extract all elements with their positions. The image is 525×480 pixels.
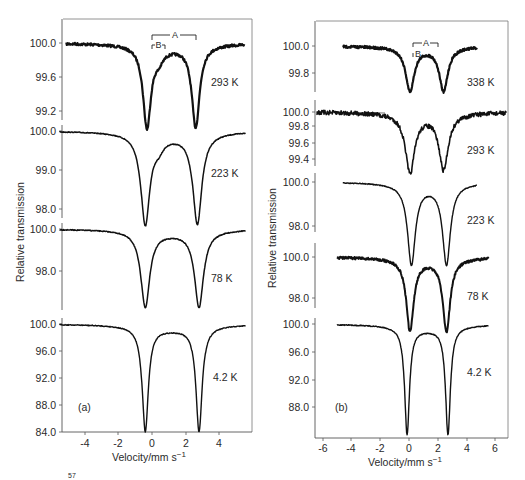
ytick-a-293-2: 99.2 — [36, 105, 57, 117]
ytick-a-4-0: 100.0 — [30, 318, 56, 330]
ytick-b-4-1: 96.0 — [289, 346, 310, 358]
ytick-b-338-1: 99.8 — [289, 67, 310, 79]
spectrum-b-223K — [343, 183, 477, 266]
ytick-b-338-0: 100.0 — [283, 40, 309, 52]
xtick-a-0: -4 — [80, 437, 89, 449]
panel-a-y-ticks: 100.0 99.6 99.2 100.0 99.0 98.0 100.0 98… — [30, 37, 62, 438]
temp-label-b-78: 78 K — [467, 290, 489, 302]
footnote-fragment: 57 — [68, 472, 76, 479]
panel-b-y-axis-title: Relative transmission — [266, 188, 278, 288]
ytick-b-293-3: 99.4 — [289, 153, 310, 165]
temp-label-a-293: 293 K — [211, 76, 238, 88]
ytick-a-78-0: 100.0 — [30, 223, 56, 235]
ytick-b-78-1: 98.0 — [289, 292, 310, 304]
ytick-b-293-2: 99.6 — [289, 137, 310, 149]
temp-label-b-223: 223 K — [467, 214, 494, 226]
spectrum-b-293K — [317, 110, 507, 173]
ytick-a-223-1: 99.0 — [36, 164, 57, 176]
temp-label-a-4: 4.2 K — [213, 371, 238, 383]
temp-label-b-338: 338 K — [467, 76, 494, 88]
xtick-b-5: 4 — [464, 442, 470, 454]
panel-a-brackets: A B — [152, 30, 196, 50]
xtick-a-1: -2 — [113, 437, 122, 449]
ytick-b-293-1: 99.8 — [289, 120, 310, 132]
ytick-a-223-0: 100.0 — [30, 125, 56, 137]
ytick-b-4-3: 88.0 — [289, 401, 310, 413]
ytick-a-4-3: 88.0 — [36, 399, 57, 411]
temp-label-b-4: 4.2 K — [467, 366, 492, 378]
xtick-a-3: 2 — [183, 437, 189, 449]
temp-label-b-293: 293 K — [467, 144, 494, 156]
panel-b-y-ticks: 100.0 99.8 100.0 99.8 99.6 99.4 100.0 98… — [283, 40, 315, 413]
xtick-b-2: -2 — [375, 442, 384, 454]
ytick-b-293-0: 100.0 — [283, 106, 309, 118]
xtick-b-3: 0 — [406, 442, 412, 454]
ytick-b-223-0: 100.0 — [283, 176, 309, 188]
ytick-b-4-0: 100.0 — [283, 318, 309, 330]
mossbauer-figure: 100.0 99.6 99.2 100.0 99.0 98.0 100.0 98… — [0, 0, 525, 480]
xtick-b-0: -6 — [318, 442, 327, 454]
spectrum-b-78K — [337, 257, 489, 333]
ytick-a-78-1: 98.0 — [36, 265, 57, 277]
xtick-a-4: 4 — [216, 437, 222, 449]
panel-a-x-axis-title: Velocity/mm s−1 — [112, 450, 186, 463]
panel-label-a: (a) — [78, 401, 91, 413]
panel-label-b: (b) — [335, 401, 348, 413]
bracket-label-a-A: A — [172, 30, 178, 40]
bracket-label-a-B: B — [155, 40, 161, 50]
xtick-b-4: 2 — [435, 442, 441, 454]
temp-label-a-78: 78 K — [211, 272, 233, 284]
xtick-a-2: 0 — [149, 437, 155, 449]
panel-b-x-ticks: -6 -4 -2 0 2 4 6 — [318, 438, 498, 454]
ytick-a-293-1: 99.6 — [36, 71, 57, 83]
spectrum-b-4K — [337, 325, 489, 435]
ytick-a-4-1: 96.0 — [36, 345, 57, 357]
panel-b: 100.0 99.8 100.0 99.8 99.6 99.4 100.0 98… — [266, 21, 508, 468]
spectrum-a-78K — [60, 230, 246, 308]
ytick-a-223-2: 98.0 — [36, 203, 57, 215]
ytick-b-223-1: 98.0 — [289, 220, 310, 232]
ytick-a-293-0: 100.0 — [30, 37, 56, 49]
ytick-a-4-4: 84.0 — [36, 426, 57, 438]
temp-label-a-223: 223 K — [211, 167, 238, 179]
ytick-b-78-0: 100.0 — [283, 251, 309, 263]
bracket-label-b-A: A — [423, 38, 429, 48]
spectrum-b-338K — [343, 46, 477, 93]
panel-a-y-axis-title: Relative transmission — [14, 182, 26, 282]
panel-a-x-ticks: -4 -2 0 2 4 — [80, 432, 222, 449]
ytick-b-4-2: 92.0 — [289, 374, 310, 386]
panel-a: 100.0 99.6 99.2 100.0 99.0 98.0 100.0 98… — [14, 19, 252, 463]
xtick-b-6: 6 — [492, 442, 498, 454]
ytick-a-4-2: 92.0 — [36, 372, 57, 384]
panel-b-x-axis-title: Velocity/mm s−1 — [368, 455, 442, 468]
xtick-b-1: -4 — [346, 442, 355, 454]
